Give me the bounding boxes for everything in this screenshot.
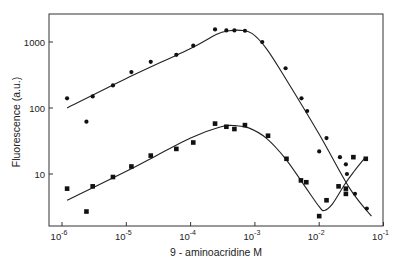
x-tick-label: 10-1 (372, 229, 389, 242)
square-marker (284, 156, 289, 161)
square-marker (90, 184, 95, 189)
x-tick-label: 10-3 (243, 229, 260, 242)
circle-marker (111, 83, 115, 87)
chart: 10-610-510-410-310-210-1 101001000 9 - a… (0, 0, 400, 269)
square-marker (266, 133, 271, 138)
circle-marker (213, 27, 217, 31)
circle-marker (84, 120, 88, 124)
y-axis-label: Fluorescence (a.u.) (10, 77, 22, 167)
plot-frame (49, 14, 383, 226)
circle-marker (338, 155, 342, 159)
fit-curve-squares (67, 125, 364, 210)
circle-marker (305, 109, 309, 113)
y-tick-label: 100 (29, 103, 45, 114)
circle-marker (344, 162, 348, 166)
circle-marker (224, 28, 228, 32)
circle-marker (129, 70, 133, 74)
circle-marker (91, 94, 95, 98)
square-marker (336, 184, 341, 189)
circle-marker (324, 136, 328, 140)
circle-marker (283, 66, 287, 70)
circle-marker (260, 40, 264, 44)
square-marker (213, 121, 218, 126)
square-marker (65, 186, 70, 191)
square-marker (129, 164, 134, 169)
circle-marker (345, 172, 349, 176)
square-marker (324, 198, 329, 203)
square-marker (148, 153, 153, 158)
square-marker (363, 156, 368, 161)
y-tick-label: 1000 (24, 37, 45, 48)
square-marker (243, 123, 248, 128)
circle-marker (317, 149, 321, 153)
x-tick-label: 10-6 (51, 229, 68, 242)
circle-marker (243, 29, 247, 33)
square-marker (317, 214, 322, 219)
x-tick-label: 10-4 (179, 229, 196, 242)
circle-marker (149, 60, 153, 64)
data-points (65, 27, 369, 218)
square-marker (111, 175, 116, 180)
x-tick-label: 10-5 (115, 229, 132, 242)
x-tick-label: 10-2 (308, 229, 325, 242)
square-marker (84, 209, 89, 214)
x-axis-ticks: 10-610-510-410-310-210-1 (51, 222, 389, 242)
circle-marker (365, 206, 369, 210)
square-marker (344, 192, 349, 197)
square-marker (304, 180, 309, 185)
circle-marker (232, 28, 236, 32)
square-marker (224, 124, 229, 129)
square-marker (344, 186, 349, 191)
fit-curves (67, 30, 371, 216)
circle-marker (353, 192, 357, 196)
square-marker (191, 140, 196, 145)
circle-marker (299, 96, 303, 100)
circle-marker (174, 53, 178, 57)
square-marker (299, 178, 304, 183)
square-marker (351, 155, 356, 160)
y-tick-label: 10 (34, 169, 45, 180)
x-axis-label: 9 - aminoacridine M (170, 246, 262, 258)
circle-marker (65, 96, 69, 100)
circle-marker (191, 44, 195, 48)
square-marker (232, 127, 237, 132)
fit-curve-circles (67, 30, 371, 216)
square-marker (174, 147, 179, 152)
